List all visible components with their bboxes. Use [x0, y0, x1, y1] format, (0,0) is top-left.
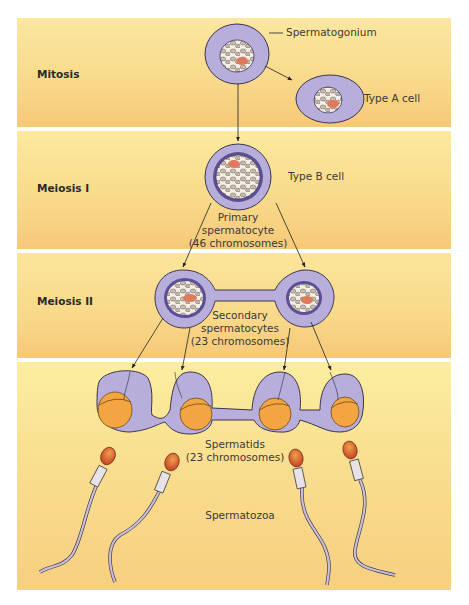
label-type-b: Type B cell — [288, 170, 344, 183]
spermatogonium-cell — [205, 24, 269, 84]
type-a-cell — [296, 75, 364, 123]
label-type-a: Type A cell — [364, 92, 420, 105]
spermatozoon-2 — [110, 451, 182, 582]
spermatids — [97, 371, 364, 434]
spermatozoon-4 — [341, 439, 395, 575]
stage-label-meiosis-ii: Meiosis II — [37, 295, 93, 307]
label-secondary-spermatocytes: Secondary spermatocytes (23 chromosomes) — [190, 309, 290, 348]
label-primary-spermatocyte: Primary spermatocyte (46 chromosomes) — [188, 211, 288, 250]
label-spermatogonium: Spermatogonium — [286, 26, 377, 39]
type-b-cell — [205, 144, 271, 210]
spermatozoon-3 — [287, 448, 329, 585]
label-spermatids: Spermatids (23 chromosomes) — [185, 438, 285, 464]
stage-label-meiosis-i: Meiosis I — [37, 182, 89, 194]
spermatozoon-1 — [40, 445, 118, 572]
label-spermatozoa: Spermatozoa — [190, 509, 290, 522]
stage-label-mitosis: Mitosis — [37, 68, 79, 80]
